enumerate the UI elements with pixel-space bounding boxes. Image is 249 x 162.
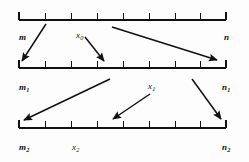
- arrow-group: [22, 24, 221, 120]
- label-n1: n1: [222, 83, 230, 92]
- label-m2-subscript: 2: [26, 146, 29, 153]
- label-m2: m2: [19, 143, 29, 152]
- arrow-n1-to-n2: [192, 79, 221, 119]
- ruler-row-1: [19, 60, 226, 68]
- label-m1: m1: [19, 83, 29, 92]
- label-n: n: [224, 33, 229, 42]
- label-n2: n2: [222, 143, 230, 152]
- diagram-canvas: [0, 0, 249, 162]
- ruler-row-2: [19, 120, 226, 128]
- label-n2-subscript: 2: [227, 146, 230, 153]
- arrow-x1-to-x2: [113, 94, 150, 119]
- label-x2: x2: [72, 143, 79, 152]
- label-x2-subscript: 2: [76, 146, 79, 153]
- label-m1-subscript: 1: [26, 86, 29, 93]
- arrow-mid-to-m2: [24, 79, 110, 120]
- interval-bisection-diagram: mx0nm1x1n1m2x2n2: [0, 0, 249, 162]
- ruler-group: [19, 12, 226, 128]
- label-x1-subscript: 1: [152, 85, 155, 92]
- label-x0-subscript: 0: [80, 34, 83, 41]
- label-x1: x1: [148, 82, 155, 91]
- arrow-x0-to-mid: [85, 37, 104, 61]
- label-m: m: [19, 33, 26, 42]
- arrow-x0-to-n1: [112, 27, 217, 60]
- arrow-m-to-m1: [22, 24, 46, 61]
- ruler-row-0: [19, 12, 226, 20]
- label-n1-subscript: 1: [227, 86, 230, 93]
- label-x0: x0: [76, 31, 83, 40]
